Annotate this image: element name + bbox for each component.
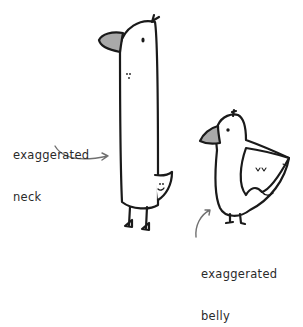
- belly-caption: exaggerated belly: [201, 239, 277, 327]
- tall-bird-wing: [155, 172, 172, 200]
- belly-arrow: [196, 210, 210, 237]
- round-bird-leg-right: [240, 214, 245, 224]
- tall-bird-body-outline: [120, 21, 158, 208]
- tall-bird-leg-left: [125, 207, 132, 227]
- round-bird-eye: [226, 128, 229, 131]
- tall-bird-eye: [141, 37, 144, 42]
- tall-bird-tuft: [152, 15, 159, 22]
- tall-bird-beak: [99, 32, 123, 52]
- neck-caption-line2: neck: [13, 190, 89, 204]
- round-bird: [200, 110, 289, 224]
- tall-bird-leg-right: [142, 207, 149, 230]
- round-bird-wing: [241, 148, 289, 195]
- belly-caption-line2: belly: [201, 309, 277, 323]
- tall-bird: [99, 15, 172, 230]
- neck-caption-line1: exaggerated: [13, 148, 89, 162]
- neck-caption: exaggerated neck: [13, 120, 89, 232]
- belly-caption-line1: exaggerated: [201, 267, 277, 281]
- round-bird-beak: [200, 126, 220, 144]
